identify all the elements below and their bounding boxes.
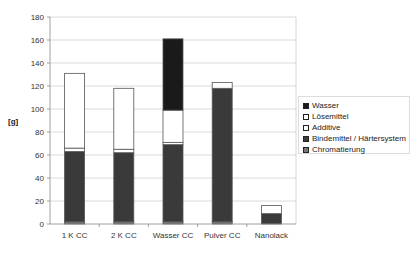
x-axis: 1 K CC2 K CCWasser CCPulver CCNanolack xyxy=(50,224,296,240)
x-tick-label: Pulver CC xyxy=(204,231,241,240)
legend-item-wasser: Wasser xyxy=(303,100,409,111)
bar-segment xyxy=(65,152,85,222)
legend-swatch xyxy=(303,136,309,142)
bar-segment xyxy=(114,149,134,152)
legend-label: Additive xyxy=(312,122,340,133)
y-tick-label: 0 xyxy=(40,220,45,229)
legend-swatch xyxy=(303,114,309,120)
legend-label: Lösemittel xyxy=(312,111,348,122)
legend-label: Wasser xyxy=(312,100,339,111)
y-tick-label: 140 xyxy=(31,59,45,68)
legend-label: Bindemittel / Härtersystem xyxy=(312,133,406,144)
y-tick-label: 40 xyxy=(35,174,44,183)
y-tick-label: 80 xyxy=(35,128,44,137)
bar-1-k-cc xyxy=(65,73,85,224)
bar-segment xyxy=(114,153,134,222)
legend-item-loesemittel: Lösemittel xyxy=(303,111,409,122)
bars xyxy=(65,39,282,224)
x-tick-label: 1 K CC xyxy=(62,231,88,240)
legend-swatch xyxy=(303,103,309,109)
legend-item-additive: Additive xyxy=(303,122,409,133)
y-axis-label: [g] xyxy=(8,117,19,126)
y-tick-label: 60 xyxy=(35,151,44,160)
bar-wasser-cc xyxy=(163,39,183,224)
legend-item-bindemittel: Bindemittel / Härtersystem xyxy=(303,133,409,144)
y-tick-label: 100 xyxy=(31,105,45,114)
bar-segment xyxy=(212,83,232,89)
y-tick-label: 180 xyxy=(31,13,45,22)
bar-segment xyxy=(261,206,281,214)
bar-segment xyxy=(212,88,232,221)
bar-segment xyxy=(163,145,183,222)
bar-nanolack xyxy=(261,206,281,224)
y-tick-label: 160 xyxy=(31,36,45,45)
bar-segment xyxy=(163,110,183,142)
bar-segment xyxy=(114,88,134,149)
legend-label: Chromatierung xyxy=(312,144,365,155)
bar-segment xyxy=(163,39,183,110)
legend-swatch xyxy=(303,147,309,153)
bar-segment xyxy=(65,148,85,151)
x-tick-label: Nanolack xyxy=(255,231,289,240)
y-tick-label: 120 xyxy=(31,82,45,91)
bar-pulver-cc xyxy=(212,83,232,224)
bar-segment xyxy=(261,214,281,224)
bar-2-k-cc xyxy=(114,88,134,224)
legend: Wasser Lösemittel Additive Bindemittel /… xyxy=(298,96,410,154)
x-tick-label: 2 K CC xyxy=(111,231,137,240)
legend-item-chromatierung: Chromatierung xyxy=(303,144,409,155)
legend-swatch xyxy=(303,125,309,131)
bar-segment xyxy=(65,73,85,148)
x-tick-label: Wasser CC xyxy=(153,231,194,240)
y-tick-label: 20 xyxy=(35,197,44,206)
